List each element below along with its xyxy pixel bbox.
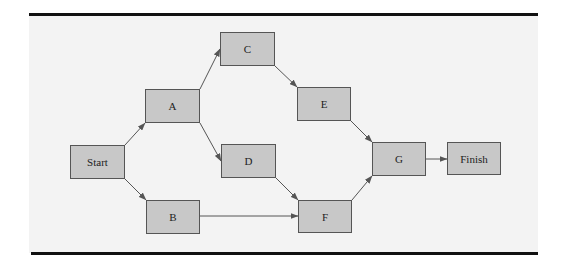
node-start[interactable]: Start xyxy=(70,145,125,179)
node-label: F xyxy=(322,211,328,223)
node-e[interactable]: E xyxy=(297,87,351,121)
edge-e-to-g xyxy=(351,121,372,142)
edge-a-to-d xyxy=(200,123,221,161)
node-a[interactable]: A xyxy=(145,89,200,123)
node-label: D xyxy=(245,155,253,167)
edge-f-to-g xyxy=(352,176,372,200)
edge-d-to-f xyxy=(276,178,298,200)
node-label: A xyxy=(169,100,177,112)
edge-c-to-e xyxy=(275,66,297,87)
node-label: G xyxy=(395,153,403,165)
edge-start-to-a xyxy=(125,123,145,145)
node-d[interactable]: D xyxy=(221,144,276,178)
node-label: Finish xyxy=(460,153,488,165)
node-label: B xyxy=(169,211,176,223)
edge-a-to-c xyxy=(200,49,220,89)
edge-layer xyxy=(0,0,564,269)
node-label: C xyxy=(244,43,251,55)
node-c[interactable]: C xyxy=(220,32,275,66)
node-finish[interactable]: Finish xyxy=(447,142,501,175)
edge-start-to-b xyxy=(125,179,146,200)
node-label: E xyxy=(321,98,328,110)
node-f[interactable]: F xyxy=(298,200,352,233)
node-b[interactable]: B xyxy=(146,200,200,234)
node-g[interactable]: G xyxy=(372,142,426,176)
node-label: Start xyxy=(87,156,108,168)
